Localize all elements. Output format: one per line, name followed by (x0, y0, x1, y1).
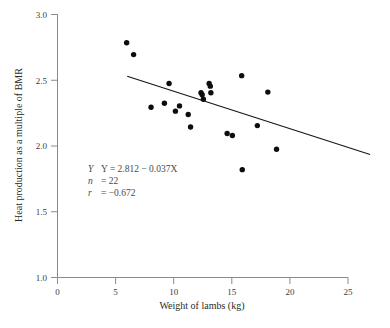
annotation-r-value: = −0.672 (101, 188, 136, 198)
y-axis-title: Heat production as a multiple of BMR (13, 68, 24, 222)
y-tick-label-2-0: 2.0 (36, 141, 48, 151)
data-point (255, 123, 260, 128)
data-point (173, 108, 178, 113)
data-point (240, 167, 245, 172)
y-tick-label-1-0: 1.0 (36, 273, 48, 283)
x-tick-label-15: 15 (227, 287, 237, 297)
x-tick-label-0: 0 (55, 287, 60, 297)
data-point (224, 131, 229, 136)
y-tick-label-3-0: 3.0 (36, 10, 48, 20)
data-point (274, 147, 279, 152)
x-axis-title: Weight of lambs (kg) (159, 300, 244, 312)
data-point (239, 73, 244, 78)
annotation-n-symbol: n (88, 176, 93, 186)
chart-canvas: 3.0 2.5 2.0 1.5 1.0 0 5 10 15 20 25 Weig… (0, 0, 390, 328)
x-tick-label-20: 20 (285, 287, 295, 297)
x-tick-label-10: 10 (169, 287, 179, 297)
x-axis-tick-labels: 0 5 10 15 20 25 (55, 287, 353, 297)
y-tick-label-2-5: 2.5 (36, 76, 48, 86)
data-point (177, 103, 182, 108)
data-point (208, 83, 213, 88)
data-point (166, 81, 171, 86)
y-axis-tick-labels: 3.0 2.5 2.0 1.5 1.0 (36, 10, 48, 283)
annotation-n-value: = 22 (101, 176, 118, 186)
data-point (186, 112, 191, 117)
annotation-r-symbol: r (88, 188, 92, 198)
data-point (208, 90, 213, 95)
regression-annotation: Y Y = 2.812 − 0.037X n = 22 r = −0.672 (88, 164, 177, 198)
x-tick-label-5: 5 (113, 287, 118, 297)
y-axis-ticks (51, 15, 58, 278)
x-axis-ticks (58, 278, 349, 285)
data-point (148, 105, 153, 110)
regression-line (127, 76, 370, 154)
data-point (201, 97, 206, 102)
scatter-plot-figure: 3.0 2.5 2.0 1.5 1.0 0 5 10 15 20 25 Weig… (0, 0, 390, 328)
y-tick-label-1-5: 1.5 (36, 207, 48, 217)
data-point (199, 92, 204, 97)
data-point (162, 101, 167, 106)
data-point (230, 133, 235, 138)
x-tick-label-25: 25 (344, 287, 354, 297)
data-points-group (124, 40, 279, 172)
data-point (188, 124, 193, 129)
data-point (124, 40, 129, 45)
annotation-y-symbol: Y (88, 164, 95, 174)
annotation-equation: Y = 2.812 − 0.037X (101, 164, 177, 174)
data-point (265, 89, 270, 94)
data-point (131, 52, 136, 57)
